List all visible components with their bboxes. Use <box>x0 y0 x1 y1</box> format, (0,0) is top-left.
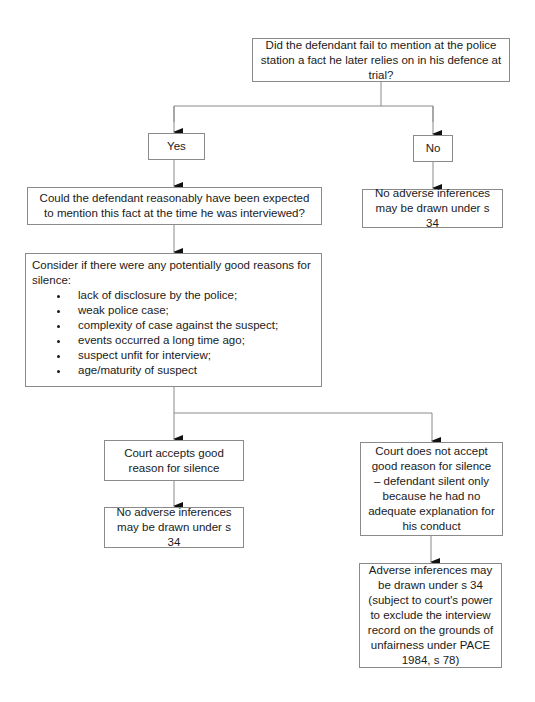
reason-item: age/maturity of suspect <box>70 363 278 378</box>
consider-reasons-box: Consider if there were any potentially g… <box>25 253 322 387</box>
yes-box: Yes <box>148 133 205 160</box>
rejects-outcome-text: Adverse inferences may be drawn under s … <box>366 563 495 668</box>
rejects-outcome-box: Adverse inferences may be drawn under s … <box>359 563 502 668</box>
reason-item: weak police case; <box>70 303 278 318</box>
reason-item: complexity of case against the suspect; <box>70 318 278 333</box>
no-outcome-text: No adverse inferences may be drawn under… <box>369 186 496 231</box>
reasons-list: lack of disclosure by the police; weak p… <box>32 288 278 378</box>
start-question-box: Did the defendant fail to mention at the… <box>252 38 510 82</box>
no-box: No <box>413 135 453 162</box>
accepts-outcome-text: No adverse inferences may be drawn under… <box>111 505 237 550</box>
no-label: No <box>426 141 441 156</box>
reason-item: events occurred a long time ago; <box>70 333 278 348</box>
reason-item: lack of disclosure by the police; <box>70 288 278 303</box>
reason-item: suspect unfit for interview; <box>70 348 278 363</box>
yes-label: Yes <box>167 139 186 154</box>
question2-box: Could the defendant reasonably have been… <box>27 187 322 225</box>
consider-intro: Consider if there were any potentially g… <box>32 258 315 288</box>
start-question-text: Did the defendant fail to mention at the… <box>259 38 503 83</box>
court-rejects-text: Court does not accept good reason for si… <box>367 444 496 534</box>
question2-text: Could the defendant reasonably have been… <box>34 191 315 221</box>
court-accepts-box: Court accepts good reason for silence <box>104 440 244 481</box>
court-rejects-box: Court does not accept good reason for si… <box>360 442 503 536</box>
no-outcome-box: No adverse inferences may be drawn under… <box>362 189 503 228</box>
accepts-outcome-box: No adverse inferences may be drawn under… <box>104 507 244 548</box>
court-accepts-text: Court accepts good reason for silence <box>111 446 237 476</box>
